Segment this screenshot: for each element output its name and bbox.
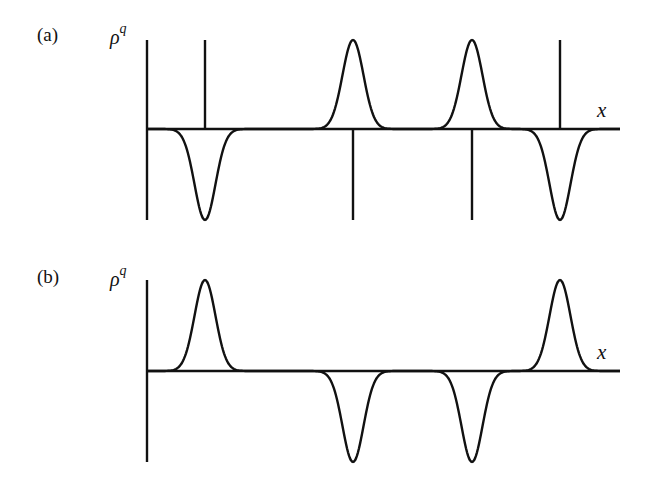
panel-b-y-axis-label: ρq xyxy=(110,266,127,291)
panel-a-y-axis-label: ρq xyxy=(110,24,127,49)
q-superscript: q xyxy=(120,263,127,278)
q-superscript: q xyxy=(120,21,127,36)
panel-b-x-axis-label: x xyxy=(597,340,606,365)
charge-density-figure xyxy=(0,0,651,482)
panel-a-x-axis-label: x xyxy=(597,98,606,123)
panel-a-label: (a) xyxy=(37,24,58,46)
panel-b-label: (b) xyxy=(37,266,59,288)
rho-symbol: ρ xyxy=(110,26,120,48)
rho-symbol: ρ xyxy=(110,268,120,290)
